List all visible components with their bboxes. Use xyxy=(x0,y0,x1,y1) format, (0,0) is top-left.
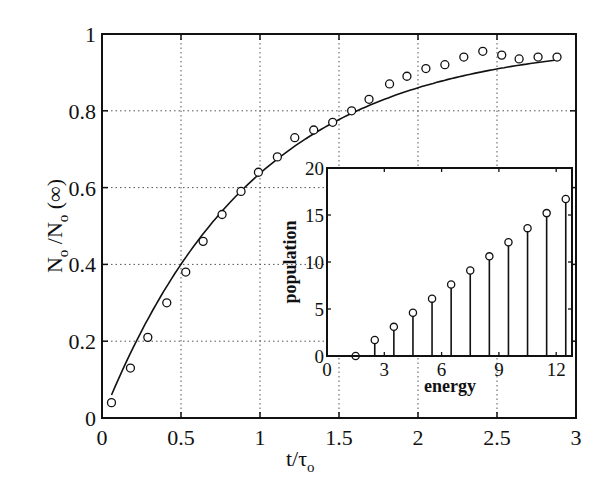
data-point xyxy=(273,153,281,161)
inset-x-tick-label: 9 xyxy=(494,359,504,380)
stem-marker xyxy=(562,195,569,202)
data-point xyxy=(237,187,245,195)
stem-marker xyxy=(371,336,378,343)
data-point xyxy=(310,126,318,134)
x-tick-label: 2 xyxy=(413,425,424,450)
y-tick-label: 1 xyxy=(85,22,96,47)
stem-marker xyxy=(428,295,435,302)
data-point xyxy=(126,364,134,372)
y-axis-label: No /No (∞) xyxy=(42,179,71,273)
inset-y-axis-label: population xyxy=(280,220,300,303)
stem-marker xyxy=(543,210,550,217)
data-point xyxy=(460,53,468,61)
inset-x-axis-label: energy xyxy=(424,376,476,396)
x-axis-label: t/τo xyxy=(286,446,315,475)
data-point xyxy=(365,95,373,103)
data-point xyxy=(144,333,152,341)
inset-x-tick-label: 3 xyxy=(380,359,390,380)
data-point xyxy=(441,61,449,69)
data-point xyxy=(422,65,430,73)
data-point xyxy=(515,55,523,63)
data-point xyxy=(498,51,506,59)
stem-marker xyxy=(505,239,512,246)
data-point xyxy=(254,168,262,176)
stem-marker xyxy=(486,253,493,260)
stem-marker xyxy=(390,323,397,330)
x-tick-label: 0.5 xyxy=(167,425,195,450)
inset-y-tick-label: 15 xyxy=(305,205,324,226)
data-point xyxy=(329,118,337,126)
x-tick-label: 0 xyxy=(97,425,108,450)
y-tick-label: 0.8 xyxy=(69,99,97,124)
y-tick-label: 0.6 xyxy=(69,176,97,201)
inset-y-tick-label: 0 xyxy=(315,346,325,367)
data-point xyxy=(218,210,226,218)
data-point xyxy=(386,80,394,88)
y-tick-label: 0 xyxy=(85,406,96,431)
data-point xyxy=(182,268,190,276)
data-point xyxy=(553,53,561,61)
stem-marker xyxy=(448,281,455,288)
y-tick-label: 0.4 xyxy=(69,252,97,277)
stem-marker xyxy=(467,267,474,274)
data-point xyxy=(534,53,542,61)
data-point xyxy=(479,47,487,55)
x-tick-label: 3 xyxy=(571,425,582,450)
inset-background xyxy=(327,168,572,356)
inset-y-tick-label: 20 xyxy=(305,158,324,179)
stem-marker xyxy=(409,309,416,316)
chart-canvas: 00.511.522.5300.20.40.60.81 t/τo No /No … xyxy=(0,0,607,487)
data-point xyxy=(348,107,356,115)
y-tick-label: 0.2 xyxy=(69,329,97,354)
x-tick-label: 2.5 xyxy=(483,425,511,450)
x-tick-label: 1.5 xyxy=(325,425,353,450)
data-point xyxy=(163,299,171,307)
stem-marker xyxy=(524,225,531,232)
inset-x-tick-label: 12 xyxy=(547,359,566,380)
data-point xyxy=(291,134,299,142)
inset-y-tick-label: 5 xyxy=(315,299,325,320)
x-tick-label: 1 xyxy=(255,425,266,450)
data-point xyxy=(107,399,115,407)
inset-y-tick-label: 10 xyxy=(305,252,324,273)
data-point xyxy=(199,237,207,245)
data-point xyxy=(403,72,411,80)
